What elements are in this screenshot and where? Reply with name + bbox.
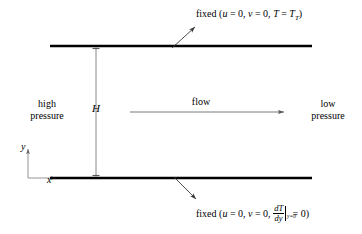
high-pressure-line1: high bbox=[16, 98, 78, 110]
x-axis-label: x bbox=[47, 174, 51, 186]
y-axis-label: y bbox=[21, 141, 25, 153]
channel-flow-diagram: fixed (u = 0, v = 0, T = TT) fixed (u = … bbox=[0, 0, 362, 234]
bottom-bc-prefix: fixed ( bbox=[196, 208, 222, 219]
low-pressure-label: low pressure bbox=[299, 98, 357, 121]
bottom-bc-u-eq: = 0, bbox=[227, 208, 245, 219]
channel-height-label: H bbox=[89, 103, 103, 115]
top-boundary-condition-label: fixed (u = 0, v = 0, T = TT) bbox=[196, 8, 302, 25]
low-pressure-line2: pressure bbox=[299, 110, 357, 122]
bottom-bc-v-eq: = 0, bbox=[252, 208, 270, 219]
top-bc-suffix: ) bbox=[299, 8, 302, 19]
top-bc-prefix: fixed ( bbox=[196, 8, 222, 19]
top-bc-u-eq: = 0, bbox=[227, 8, 245, 19]
high-pressure-line2: pressure bbox=[16, 110, 78, 122]
fraction-denominator: dy bbox=[273, 214, 284, 223]
top-bc-v-eq: = 0, bbox=[252, 8, 270, 19]
temperature-gradient-fraction: dTdy bbox=[273, 204, 284, 222]
bottom-leader-arrow bbox=[174, 177, 196, 199]
high-pressure-label: high pressure bbox=[16, 98, 78, 121]
evaluated-at-bar: y=0 bbox=[284, 206, 290, 221]
flow-label: flow bbox=[180, 96, 222, 108]
bottom-boundary-condition-label: fixed (u = 0, v = 0, dTdyy=0 = 0) bbox=[196, 204, 309, 222]
low-pressure-line1: low bbox=[299, 98, 357, 110]
evaluated-at-value: y=0 bbox=[287, 211, 296, 223]
top-bc-t-eq: = bbox=[279, 8, 290, 19]
evaluation-rule bbox=[285, 206, 286, 221]
